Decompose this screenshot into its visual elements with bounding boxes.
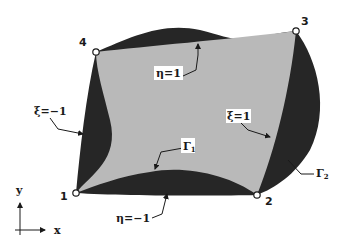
node-3-marker [293,28,299,34]
node-label-4: 4 [79,36,87,49]
x-axis-label: x [54,224,61,237]
node-label-1: 1 [60,190,68,203]
isoparametric-element-diagram: 1 2 3 4 η=1 η=−1 ξ=−1 ξ=1 Γ1 Γ2 y x [0,0,340,248]
eta-top-label: η=1 [156,67,181,80]
leader-eta-bottom [152,194,167,218]
leader-xi-left [50,118,83,134]
coordinate-axes: y x [15,184,61,237]
y-axis-label: y [15,184,23,197]
gamma2-label: Γ2 [316,167,329,181]
xi-right-label: ξ=1 [227,110,250,123]
node-4-marker [93,49,99,55]
node-label-3: 3 [301,15,309,28]
node-label-2: 2 [265,195,273,208]
node-2-marker [254,192,260,198]
eta-bottom-label: η=−1 [116,212,150,225]
xi-left-label: ξ=−1 [34,105,67,118]
node-1-marker [73,190,79,196]
